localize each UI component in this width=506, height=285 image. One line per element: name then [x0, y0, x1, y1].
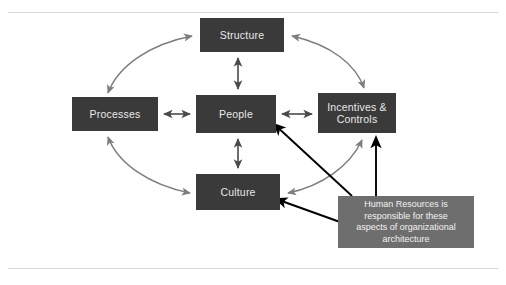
- callout-line-2: responsible for these: [356, 211, 456, 223]
- connector-structure-incentives: [292, 36, 364, 88]
- callout-line-3: aspects of organizational: [356, 222, 456, 234]
- node-structure-label: Structure: [220, 29, 264, 41]
- callout-line-1: Human Resources is: [356, 199, 456, 211]
- callout-line-4: architecture: [356, 234, 456, 246]
- node-incentives-label-line2: Controls: [327, 113, 387, 125]
- node-incentives[interactable]: Incentives & Controls: [318, 93, 396, 133]
- node-structure[interactable]: Structure: [200, 18, 284, 52]
- connector-processes-structure: [108, 36, 192, 93]
- node-culture[interactable]: Culture: [196, 174, 280, 210]
- node-incentives-label-line1: Incentives &: [327, 101, 387, 113]
- pointer-callout-to-culture: [276, 199, 340, 222]
- node-processes-label: Processes: [90, 108, 141, 120]
- connector-processes-culture: [108, 137, 190, 193]
- node-processes[interactable]: Processes: [72, 97, 158, 131]
- diagram-canvas: Structure Processes People Incentives & …: [0, 0, 506, 285]
- bottom-divider-rule: [8, 268, 498, 269]
- node-culture-label: Culture: [220, 186, 255, 198]
- node-people-label: People: [219, 108, 253, 120]
- node-people[interactable]: People: [196, 95, 276, 133]
- top-divider-rule: [8, 12, 498, 13]
- callout-box-human-resources[interactable]: Human Resources is responsible for these…: [338, 196, 474, 248]
